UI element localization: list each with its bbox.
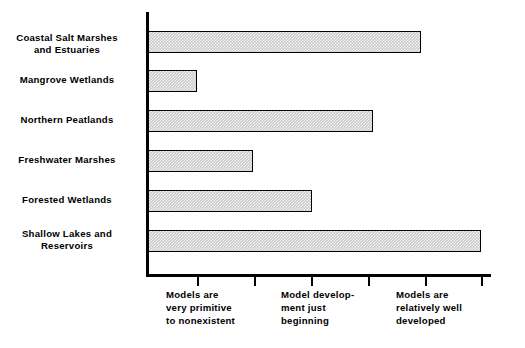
category-label-forested-wetlands: Forested Wetlands <box>0 194 147 206</box>
x-axis-tick-5 <box>425 277 427 286</box>
horizontal-bar-chart: Coastal Salt Marshes and Estuaries Mangr… <box>0 0 525 348</box>
category-label-mangrove-wetlands: Mangrove Wetlands <box>0 74 147 86</box>
bar-shallow-lakes <box>148 230 481 252</box>
x-axis-tick-4 <box>368 277 370 286</box>
bar-forested-wetlands <box>148 190 312 212</box>
bar-freshwater-marshes <box>148 150 253 172</box>
category-label-coastal-salt-marshes: Coastal Salt Marshes and Estuaries <box>0 32 147 55</box>
category-label-freshwater-marshes: Freshwater Marshes <box>0 154 147 166</box>
x-axis-caption-primitive: Models are very primitive to nonexistent <box>166 288 286 327</box>
x-axis-tick-2 <box>254 277 256 286</box>
bar-coastal-salt-marshes <box>148 31 421 53</box>
bar-northern-peatlands <box>148 110 373 132</box>
x-axis-tick-6 <box>481 277 483 286</box>
category-label-shallow-lakes: Shallow Lakes and Reservoirs <box>0 228 147 251</box>
x-axis-tick-1 <box>197 277 199 286</box>
x-axis-tick-3 <box>311 277 313 286</box>
x-axis-caption-developed: Models are relatively well developed <box>396 288 516 327</box>
bar-mangrove-wetlands <box>148 70 197 92</box>
category-label-northern-peatlands: Northern Peatlands <box>0 114 147 126</box>
x-axis-caption-beginning: Model develop- ment just beginning <box>281 288 401 327</box>
